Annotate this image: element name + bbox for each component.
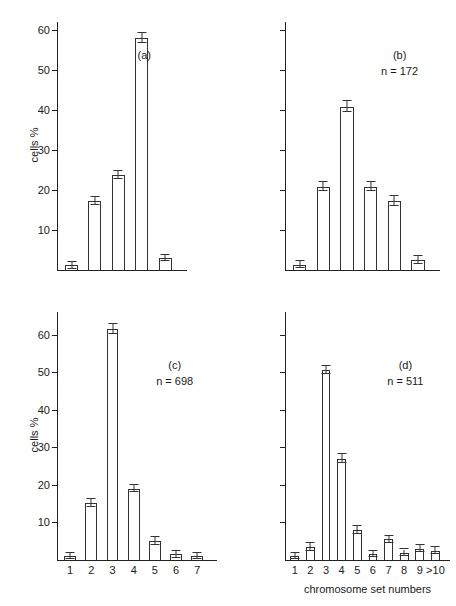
- y-axis-tick: [280, 372, 285, 373]
- y-axis-tick: [280, 485, 285, 486]
- x-axis-tick-label: 3: [323, 565, 329, 576]
- bar-group: [306, 312, 315, 560]
- bar-group: [322, 312, 331, 560]
- error-bar-cap-bottom: [400, 555, 409, 556]
- error-bar-cap-bottom: [353, 533, 362, 534]
- x-axis-tick-label: >10: [426, 565, 445, 576]
- bar-group: [415, 312, 424, 560]
- y-axis-tick: [280, 335, 285, 336]
- error-bar-cap-top: [290, 552, 299, 553]
- error-bar-cap-top: [306, 542, 315, 543]
- bar: [337, 459, 346, 560]
- panel-label-d: (d) n = 511: [387, 358, 423, 390]
- y-axis-line: [285, 312, 286, 560]
- error-bar-cap-bottom: [290, 558, 299, 559]
- x-axis-tick-label: 5: [354, 565, 360, 576]
- error-bar-cap-top: [337, 453, 346, 454]
- bar: [353, 530, 362, 560]
- x-axis-title: chromosome set numbers: [304, 583, 431, 595]
- error-bar-cap-bottom: [384, 542, 393, 543]
- figure-canvas: 102030405060(a)cells %(b) n = 1721020304…: [0, 0, 456, 606]
- error-bar-cap-top: [384, 535, 393, 536]
- x-axis-line: [285, 560, 450, 561]
- x-axis-tick-label: 1: [292, 565, 298, 576]
- x-axis-tick-label: 7: [385, 565, 391, 576]
- bar-group: [290, 312, 299, 560]
- bar-group: [337, 312, 346, 560]
- error-bar-cap-top: [353, 525, 362, 526]
- plot-area-d: 123456789>10: [285, 312, 450, 560]
- error-bar-cap-bottom: [415, 551, 424, 552]
- panel-d: 123456789>10(d) n = 511chromosome set nu…: [0, 0, 456, 606]
- bar-group: [384, 312, 393, 560]
- x-axis-tick-label: 9: [417, 565, 423, 576]
- bar-group: [400, 312, 409, 560]
- error-bar-cap-bottom: [368, 556, 377, 557]
- error-bar-cap-bottom: [321, 373, 330, 374]
- bar: [322, 370, 331, 560]
- bar-group: [369, 312, 378, 560]
- x-axis-tick-label: 6: [370, 565, 376, 576]
- error-bar-cap-top: [400, 548, 409, 549]
- y-axis-tick: [280, 410, 285, 411]
- error-bar-cap-top: [321, 365, 330, 366]
- error-bar-cap-top: [368, 550, 377, 551]
- x-axis-tick-label: 2: [307, 565, 313, 576]
- x-axis-tick-label: 4: [339, 565, 345, 576]
- error-bar-cap-bottom: [306, 550, 315, 551]
- y-axis-tick: [280, 447, 285, 448]
- error-bar-cap-top: [415, 544, 424, 545]
- error-bar-cap-top: [431, 546, 440, 547]
- bar-group: [431, 312, 440, 560]
- bar-group: [353, 312, 362, 560]
- error-bar-cap-bottom: [431, 553, 440, 554]
- x-axis-tick-label: 8: [401, 565, 407, 576]
- error-bar-cap-bottom: [337, 462, 346, 463]
- y-axis-tick: [280, 522, 285, 523]
